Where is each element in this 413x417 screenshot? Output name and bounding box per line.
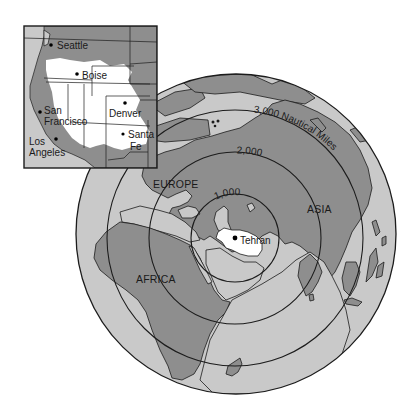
label-europe: EUROPE [153, 178, 199, 190]
label-francisco: Francisco [44, 116, 88, 127]
label-fe: Fe [130, 141, 142, 152]
label-san: San [44, 105, 62, 116]
label-denver: Denver [109, 108, 142, 119]
label-tehran: Tehran [240, 235, 271, 246]
label-asia: ASIA [307, 203, 332, 215]
land-sri-lanka [309, 294, 314, 301]
label-los: Los [29, 136, 45, 147]
los-angeles-marker [54, 137, 58, 141]
tehran-marker [233, 236, 238, 241]
santa-fe-marker [121, 132, 124, 135]
san-francisco-marker [38, 110, 42, 114]
label-santa: Santa [128, 129, 155, 140]
label-africa: AFRICA [136, 273, 176, 285]
denver-marker [123, 101, 127, 105]
seattle-marker [49, 43, 53, 47]
label-seattle: Seattle [57, 40, 89, 51]
range-map: Tehran EUROPE ASIA AFRICA 1,000 2,000 3,… [0, 0, 413, 417]
land-islands-2 [382, 236, 386, 246]
inset-map: Seattle Boise San Francisco Denver Los A… [24, 26, 157, 168]
label-boise: Boise [82, 70, 107, 81]
label-angeles: Angeles [29, 147, 65, 158]
boise-marker [75, 72, 79, 76]
